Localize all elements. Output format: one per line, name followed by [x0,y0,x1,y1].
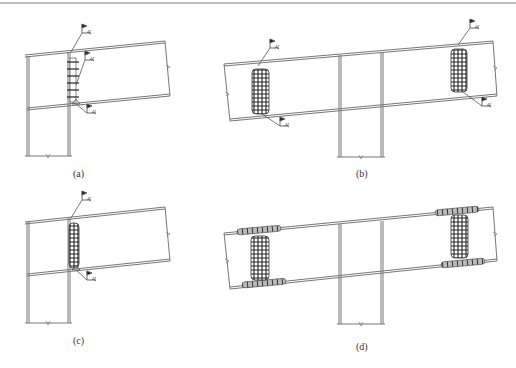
structural-diagram [0,0,516,368]
grid-weld [69,223,79,268]
beam [25,207,170,276]
weld-row [67,58,79,102]
column [25,52,72,158]
grid-weld-right [451,215,468,258]
panel-b [224,19,497,159]
panel-c [25,191,170,325]
panel-label-b: (b) [356,168,368,179]
panel-d [224,206,497,326]
panel-label-d: (d) [356,341,368,352]
beam [25,41,170,110]
grid-weld-left [252,69,269,114]
panel-a [25,24,170,158]
grid-weld-left [251,236,269,280]
panel-label-c: (c) [73,335,84,346]
panel-label-a: (a) [73,168,84,179]
grid-weld-right [451,49,467,92]
